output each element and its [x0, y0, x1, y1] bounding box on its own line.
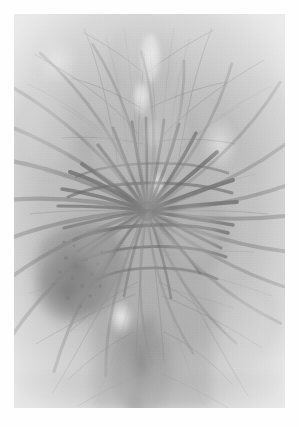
figure-caption: [14, 410, 285, 425]
plate-page: [0, 0, 299, 427]
specimen-figure: [14, 14, 285, 408]
specimen-image: [14, 14, 285, 408]
